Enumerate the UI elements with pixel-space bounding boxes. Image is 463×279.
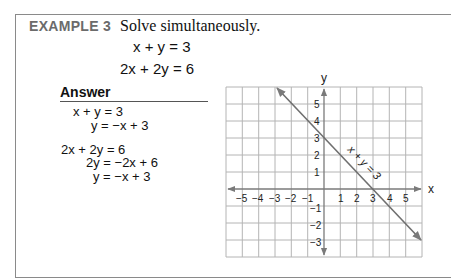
- x-tick-label: 5: [403, 193, 409, 204]
- coordinate-graph: y x −5 −4 −3 −2 −1 1 2 3 4 5 5 4 3 2 1 −…: [0, 0, 463, 279]
- line-x-plus-y-equals-3: [277, 88, 421, 240]
- y-tick-label: 1: [314, 167, 320, 178]
- x-tick-label: −4: [252, 193, 264, 204]
- x-tick-label: 1: [338, 193, 344, 204]
- x-tick-label: −2: [285, 193, 297, 204]
- x-tick-label: −3: [269, 193, 281, 204]
- x-tick-label: 3: [370, 193, 376, 204]
- x-tick-label: −5: [236, 193, 248, 204]
- y-tick-label: −2: [310, 220, 322, 231]
- x-tick-label: 2: [354, 193, 360, 204]
- y-tick-label: 2: [314, 150, 320, 161]
- line-equation-label: x + y = 3: [345, 142, 384, 182]
- x-axis-label: x: [428, 182, 434, 196]
- y-tick-label: 4: [314, 116, 320, 127]
- y-tick-label: 3: [314, 133, 320, 144]
- y-tick-label: −1: [310, 203, 322, 214]
- y-tick-label: 5: [314, 99, 320, 110]
- y-tick-label: −3: [310, 237, 322, 248]
- y-axis-label: y: [321, 71, 327, 85]
- x-tick-label: 4: [387, 193, 393, 204]
